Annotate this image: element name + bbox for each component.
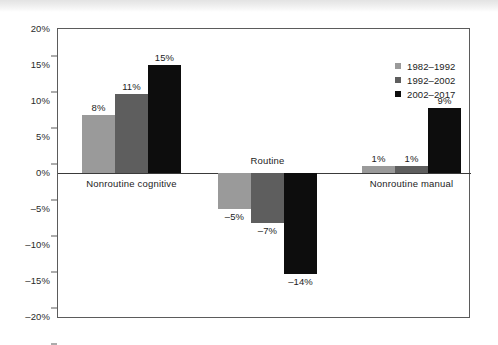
category-label: Nonroutine manual [340, 178, 483, 189]
bar-value-label: –7% [251, 225, 284, 236]
legend-swatch-icon [395, 91, 401, 97]
category-label: Nonroutine cognitive [60, 178, 203, 189]
legend: 1982–19921992–20022002–2017 [395, 60, 498, 102]
plot-area: 8%11%15%–5%–7%–14%1%1%9% Nonroutine cogn… [57, 28, 470, 318]
bar[interactable] [115, 94, 148, 173]
legend-swatch-icon [395, 77, 401, 83]
bar-value-label: 11% [115, 81, 148, 92]
legend-item[interactable]: 1982–1992 [395, 60, 498, 72]
bar[interactable] [362, 166, 395, 173]
legend-swatch-icon [395, 63, 401, 69]
bar-value-label: 1% [395, 153, 428, 164]
legend-label: 1992–2002 [407, 75, 455, 86]
y-axis-tick-mark [51, 344, 57, 345]
bar[interactable] [428, 108, 461, 173]
legend-label: 2002–2017 [407, 89, 455, 100]
bar[interactable] [395, 166, 428, 173]
bar[interactable] [82, 115, 115, 173]
bar-value-label: 1% [362, 153, 395, 164]
legend-item[interactable]: 2002–2017 [395, 88, 498, 100]
bar-value-label: –5% [218, 211, 251, 222]
bar-value-label: 8% [82, 102, 115, 113]
legend-item[interactable]: 1992–2002 [395, 74, 498, 86]
bar[interactable] [251, 173, 284, 223]
y-axis-ticks [0, 28, 57, 318]
bar[interactable] [148, 65, 181, 173]
bar[interactable] [218, 173, 251, 209]
bar-value-label: 15% [148, 52, 181, 63]
legend-label: 1982–1992 [407, 61, 455, 72]
bar-value-label: –14% [284, 276, 317, 287]
bar[interactable] [284, 173, 317, 274]
category-label: Routine [196, 155, 339, 166]
